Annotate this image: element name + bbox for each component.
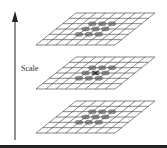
middle-layer [36, 57, 155, 89]
bottom-layer [36, 101, 155, 133]
scale-arrow-icon [12, 11, 18, 140]
grid-lines [36, 13, 155, 45]
top-layer [36, 13, 155, 45]
grid-lines [36, 101, 155, 133]
scale-space-diagram [0, 0, 167, 148]
bottom-divider [0, 145, 167, 148]
scale-axis-label: Scale [21, 64, 38, 73]
